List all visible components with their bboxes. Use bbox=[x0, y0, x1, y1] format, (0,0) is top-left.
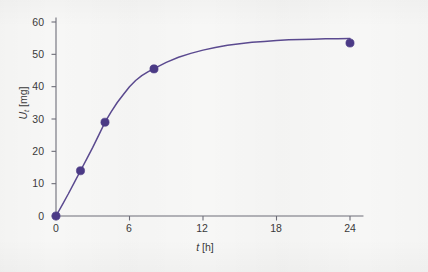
data-point-marker bbox=[101, 118, 109, 126]
data-point-markers bbox=[52, 39, 354, 220]
y-tick-label-10: 10 bbox=[16, 177, 44, 189]
y-axis-unit: [mg] bbox=[17, 86, 29, 106]
x-tick-label-12: 12 bbox=[192, 222, 212, 234]
x-tick-label-24: 24 bbox=[340, 222, 360, 234]
data-point-marker bbox=[150, 65, 158, 73]
y-tick-label-20: 20 bbox=[16, 145, 44, 157]
x-tick-label-18: 18 bbox=[266, 222, 286, 234]
x-axis-unit: [h] bbox=[202, 241, 214, 253]
figure-panel: 60 50 40 30 20 10 0 0 6 12 18 24 Ut [mg]… bbox=[0, 0, 428, 272]
y-axis-symbol: U bbox=[17, 112, 29, 120]
data-point-marker bbox=[346, 39, 354, 47]
y-axis-title: Ut [mg] bbox=[17, 73, 31, 133]
x-tick-label-6: 6 bbox=[119, 222, 139, 234]
y-tick-label-60: 60 bbox=[16, 16, 44, 28]
x-axis-symbol: t bbox=[196, 241, 199, 253]
y-axis-subscript: t bbox=[22, 110, 31, 112]
data-point-marker bbox=[52, 212, 60, 220]
x-tick-label-0: 0 bbox=[46, 222, 66, 234]
data-point-marker bbox=[76, 167, 84, 175]
axes-group bbox=[52, 18, 364, 221]
y-tick-label-50: 50 bbox=[16, 48, 44, 60]
y-tick-label-0: 0 bbox=[16, 210, 44, 222]
x-axis-title: t [h] bbox=[150, 241, 260, 253]
fitted-curve bbox=[56, 38, 350, 216]
